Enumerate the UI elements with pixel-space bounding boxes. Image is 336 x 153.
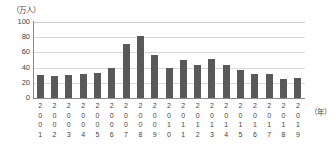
x-tick-digit: 0	[90, 120, 104, 130]
bar	[294, 78, 301, 98]
x-axis-unit-label: （年）	[310, 108, 331, 117]
x-tick-digit: 0	[205, 111, 219, 121]
x-tick-digit: 6	[105, 130, 119, 140]
x-tick-digit: 0	[33, 111, 47, 121]
bar	[237, 70, 244, 98]
x-tick-digit: 1	[262, 120, 276, 130]
x-tick-digit: 9	[148, 130, 162, 140]
x-tick-digit: 3	[62, 130, 76, 140]
x-tick-digit: 8	[133, 130, 147, 140]
x-tick-digit: 4	[76, 130, 90, 140]
bar	[37, 75, 44, 98]
x-tick-digit: 0	[148, 111, 162, 121]
x-tick-digit: 2	[219, 101, 233, 111]
x-tick-digit: 0	[90, 111, 104, 121]
x-tick-label: 2019	[291, 101, 305, 139]
x-tick-digit: 5	[90, 130, 104, 140]
x-tick-digit: 0	[233, 111, 247, 121]
x-tick-digit: 0	[76, 111, 90, 121]
x-tick-digit: 1	[176, 130, 190, 140]
x-tick-digit: 0	[105, 120, 119, 130]
x-tick-digit: 2	[176, 101, 190, 111]
x-tick-label: 2015	[233, 101, 247, 139]
x-tick-digit: 0	[119, 120, 133, 130]
x-tick-digit: 0	[148, 120, 162, 130]
bar	[108, 68, 115, 98]
x-tick-digit: 0	[133, 120, 147, 130]
x-tick-digit: 8	[276, 130, 290, 140]
gridline-60	[33, 52, 305, 53]
x-tick-digit: 9	[291, 130, 305, 140]
x-tick-label: 2008	[133, 101, 147, 139]
bar	[194, 65, 201, 98]
x-tick-digit: 6	[248, 130, 262, 140]
x-tick-label: 2012	[190, 101, 204, 139]
x-tick-digit: 2	[33, 101, 47, 111]
x-tick-digit: 0	[105, 111, 119, 121]
x-tick-digit: 2	[90, 101, 104, 111]
x-tick-digit: 2	[76, 101, 90, 111]
bar	[266, 74, 273, 98]
x-tick-digit: 7	[119, 130, 133, 140]
bar	[137, 36, 144, 98]
bar	[51, 76, 58, 98]
x-tick-digit: 1	[176, 120, 190, 130]
x-tick-label: 2011	[176, 101, 190, 139]
x-tick-label: 2014	[219, 101, 233, 139]
x-tick-digit: 2	[291, 101, 305, 111]
x-tick-label: 2007	[119, 101, 133, 139]
y-tick-label: 40	[4, 64, 30, 72]
x-tick-digit: 2	[47, 101, 61, 111]
x-tick-digit: 7	[262, 130, 276, 140]
x-tick-digit: 2	[162, 101, 176, 111]
bar	[223, 65, 230, 98]
x-tick-label: 2009	[148, 101, 162, 139]
bar	[65, 75, 72, 98]
x-tick-digit: 1	[276, 120, 290, 130]
y-tick-label: 80	[4, 33, 30, 41]
x-tick-digit: 1	[205, 120, 219, 130]
x-tick-digit: 2	[119, 101, 133, 111]
x-tick-label: 2006	[105, 101, 119, 139]
x-tick-digit: 0	[162, 111, 176, 121]
x-tick-digit: 2	[233, 101, 247, 111]
x-tick-label: 2002	[47, 101, 61, 139]
x-tick-label: 2005	[90, 101, 104, 139]
plot-area	[33, 22, 305, 98]
x-tick-digit: 0	[133, 111, 147, 121]
x-tick-digit: 2	[47, 130, 61, 140]
x-tick-digit: 2	[148, 101, 162, 111]
x-tick-digit: 0	[119, 111, 133, 121]
y-tick-label: 0	[4, 94, 30, 102]
y-tick-label: 100	[4, 18, 30, 26]
x-tick-digit: 2	[133, 101, 147, 111]
x-tick-digit: 1	[162, 120, 176, 130]
bar	[80, 74, 87, 98]
x-tick-digit: 1	[248, 120, 262, 130]
x-tick-digit: 3	[205, 130, 219, 140]
x-tick-digit: 0	[190, 111, 204, 121]
x-tick-label: 2017	[262, 101, 276, 139]
x-axis-line	[33, 98, 305, 99]
bar	[94, 73, 101, 98]
x-tick-digit: 1	[233, 120, 247, 130]
x-tick-digit: 2	[190, 130, 204, 140]
x-tick-label: 2004	[76, 101, 90, 139]
x-tick-digit: 0	[162, 130, 176, 140]
bar	[280, 79, 287, 98]
x-tick-digit: 0	[219, 111, 233, 121]
x-tick-label: 2016	[248, 101, 262, 139]
x-tick-digit: 0	[262, 111, 276, 121]
y-axis-line	[33, 21, 34, 99]
gridline-100	[33, 22, 305, 23]
x-tick-digit: 2	[190, 101, 204, 111]
x-tick-label: 2003	[62, 101, 76, 139]
x-tick-digit: 0	[33, 120, 47, 130]
x-tick-digit: 2	[276, 101, 290, 111]
y-tick-label: 20	[4, 79, 30, 87]
x-tick-digit: 0	[248, 111, 262, 121]
x-tick-digit: 0	[176, 111, 190, 121]
x-tick-digit: 0	[47, 120, 61, 130]
x-tick-digit: 0	[62, 111, 76, 121]
x-tick-digit: 1	[291, 120, 305, 130]
